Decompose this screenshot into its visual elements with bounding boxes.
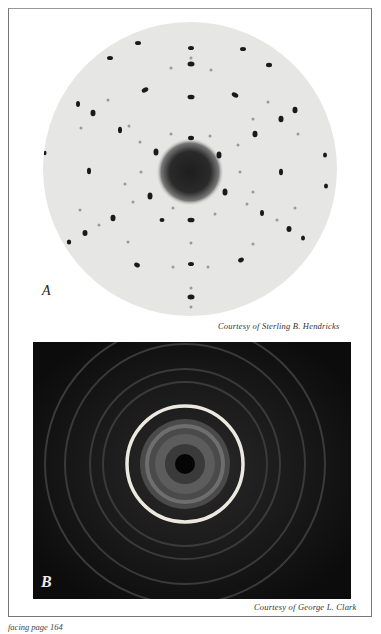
figure-a-laue-pattern: [43, 22, 337, 316]
figure-a-credit: Courtesy of Sterling B. Hendricks: [218, 321, 340, 331]
page-caption: facing page 164: [8, 622, 63, 632]
figure-b-credit: Courtesy of George L. Clark: [254, 602, 357, 612]
powder-rings: [33, 342, 351, 599]
figure-b-powder-pattern: [33, 342, 351, 599]
laue-spots: [43, 22, 337, 316]
figure-b-label: B: [41, 573, 52, 591]
figure-a-label: A: [42, 283, 51, 299]
